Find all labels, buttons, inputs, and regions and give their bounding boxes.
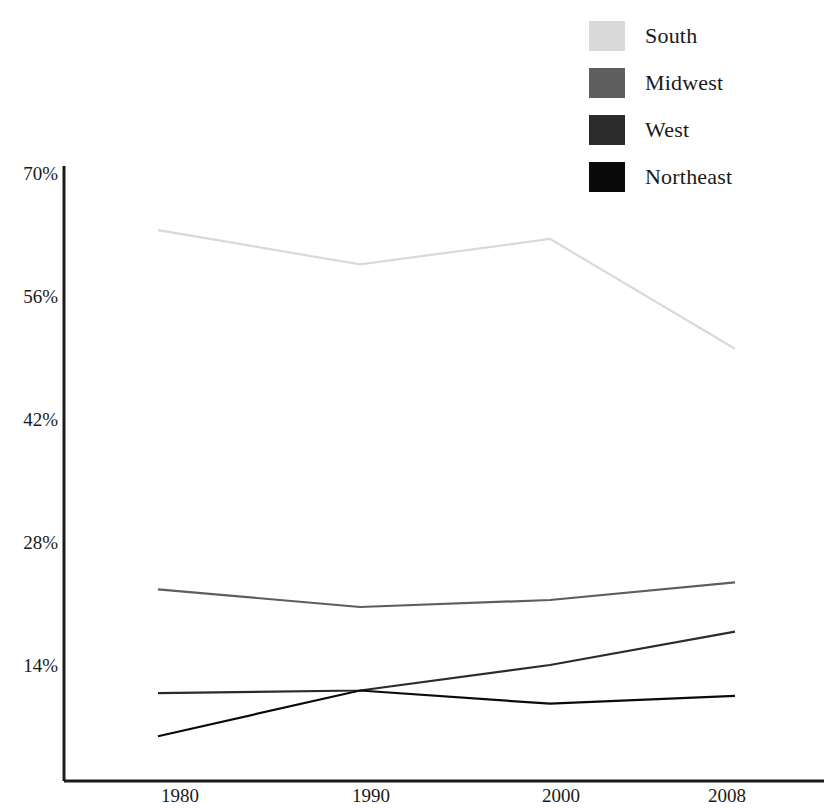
plot-area (0, 0, 824, 808)
x-tick-label-2000: 2000 (542, 786, 580, 805)
x-tick-label-2008: 2008 (708, 786, 746, 805)
series-line-west (158, 632, 735, 694)
y-tick-label-70: 70% (4, 164, 58, 183)
x-axis-tick-labels: 1980 1990 2000 2008 (0, 786, 824, 808)
y-tick-label-56: 56% (4, 287, 58, 306)
x-tick-label-1980: 1980 (161, 786, 199, 805)
y-axis-tick-labels: 70% 56% 42% 28% 14% (0, 0, 58, 808)
y-tick-label-28: 28% (4, 533, 58, 552)
series-line-northeast (158, 691, 735, 737)
series-line-south (158, 230, 735, 349)
y-tick-label-14: 14% (4, 656, 58, 675)
series-line-midwest (158, 582, 735, 607)
y-tick-label-42: 42% (4, 410, 58, 429)
series-lines (158, 230, 735, 736)
x-tick-label-1990: 1990 (352, 786, 390, 805)
axis-lines (64, 166, 824, 781)
line-chart: South Midwest West Northeast 70% 56% 42%… (0, 0, 824, 808)
